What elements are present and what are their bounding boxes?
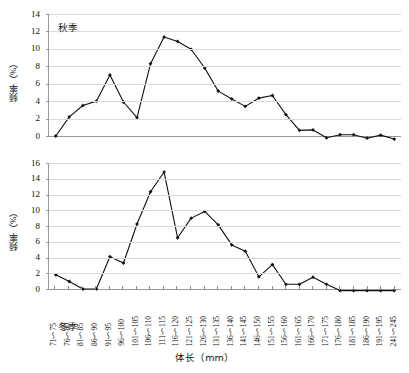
x-tick-mark bbox=[204, 286, 205, 290]
y-tick-label: 14 bbox=[22, 174, 40, 183]
y-tick-mark bbox=[46, 31, 49, 32]
x-tick-label: 191～195 bbox=[376, 316, 384, 347]
x-tick: 81～85 bbox=[76, 290, 87, 346]
data-point-marker bbox=[149, 62, 153, 66]
x-tick-mark bbox=[68, 286, 69, 290]
y-tick-label: 12 bbox=[22, 190, 40, 199]
x-tick: 71～75 bbox=[49, 290, 60, 346]
x-tick-mark bbox=[326, 286, 327, 290]
y-tick-label: 4 bbox=[22, 97, 40, 106]
x-tick-mark bbox=[217, 286, 218, 290]
y-tick-mark bbox=[46, 273, 49, 274]
gridline bbox=[49, 119, 401, 120]
data-point-marker bbox=[365, 136, 369, 140]
x-tick-mark bbox=[244, 286, 245, 290]
x-tick-mark bbox=[272, 286, 273, 290]
data-point-marker bbox=[122, 261, 126, 265]
x-tick-mark bbox=[122, 286, 123, 290]
x-tick-mark bbox=[163, 286, 164, 290]
gridline bbox=[49, 273, 401, 274]
gridline bbox=[49, 163, 401, 164]
y-tick-mark bbox=[46, 195, 49, 196]
gridline bbox=[49, 49, 401, 50]
x-tick: 171～175 bbox=[321, 290, 332, 346]
gridline bbox=[49, 66, 401, 67]
x-tick-mark bbox=[380, 286, 381, 290]
x-tick-mark bbox=[81, 286, 82, 290]
gridline bbox=[49, 210, 401, 211]
x-tick-label: 186～190 bbox=[363, 316, 371, 347]
data-point-marker bbox=[352, 133, 356, 137]
x-tick: 241～245 bbox=[389, 290, 400, 346]
y-tick-mark bbox=[46, 14, 49, 15]
gridline bbox=[49, 84, 401, 85]
x-tick-label: 86～90 bbox=[91, 323, 99, 346]
x-tick: 141～145 bbox=[239, 290, 250, 346]
y-tick-label: 12 bbox=[22, 27, 40, 36]
y-tick-label: 6 bbox=[22, 237, 40, 246]
x-tick-mark bbox=[339, 286, 340, 290]
y-tick-label: 8 bbox=[22, 222, 40, 231]
x-tick-label: 121～125 bbox=[186, 316, 194, 347]
x-tick-label: 76～80 bbox=[64, 323, 72, 346]
gridline bbox=[49, 31, 401, 32]
gridline bbox=[49, 179, 401, 180]
x-tick: 146～150 bbox=[253, 290, 264, 346]
x-tick-label: 111～115 bbox=[159, 316, 167, 346]
x-tick-label: 166～170 bbox=[308, 316, 316, 347]
y-tick-mark bbox=[46, 258, 49, 259]
x-tick: 176～180 bbox=[334, 290, 345, 346]
x-tick-mark bbox=[367, 286, 368, 290]
x-tick-label: 241～245 bbox=[390, 316, 398, 347]
x-tick: 121～125 bbox=[185, 290, 196, 346]
x-tick-mark bbox=[109, 286, 110, 290]
x-tick: 186～190 bbox=[362, 290, 373, 346]
y-tick-mark bbox=[46, 179, 49, 180]
x-tick-label: 71～75 bbox=[50, 323, 58, 346]
x-tick: 191～195 bbox=[375, 290, 386, 346]
data-point-marker bbox=[392, 137, 396, 141]
gridline bbox=[49, 226, 401, 227]
x-tick-label: 126～130 bbox=[200, 316, 208, 347]
x-tick-mark bbox=[299, 286, 300, 290]
y-tick-label: 0 bbox=[22, 132, 40, 141]
x-tick-label: 141～145 bbox=[240, 316, 248, 347]
x-tick-mark bbox=[136, 286, 137, 290]
x-tick: 156～160 bbox=[280, 290, 291, 346]
x-tick: 76～80 bbox=[63, 290, 74, 346]
x-tick-mark bbox=[353, 286, 354, 290]
x-tick-mark bbox=[285, 286, 286, 290]
gridline bbox=[49, 195, 401, 196]
x-tick: 96～100 bbox=[117, 290, 128, 346]
y-tick-label: 6 bbox=[22, 79, 40, 88]
x-tick-mark bbox=[176, 286, 177, 290]
y-tick-mark bbox=[46, 210, 49, 211]
x-tick: 101～105 bbox=[131, 290, 142, 346]
x-tick-label: 81～85 bbox=[77, 323, 85, 346]
data-point-marker bbox=[338, 133, 342, 137]
x-tick-mark bbox=[394, 286, 395, 290]
x-tick-label: 106～110 bbox=[145, 316, 153, 346]
x-tick-mark bbox=[312, 286, 313, 290]
data-point-marker bbox=[311, 275, 315, 279]
y-tick-label: 14 bbox=[22, 10, 40, 19]
x-tick-mark bbox=[190, 286, 191, 290]
chart-panel-autumn: 频率（%） 02468101214 秋季 bbox=[0, 4, 409, 152]
x-tick-mark bbox=[95, 286, 96, 290]
x-tick-mark bbox=[54, 286, 55, 290]
chart-panel-winter: 频率（%） 0246810121416 冬季 bbox=[0, 155, 409, 305]
y-tick-mark bbox=[46, 119, 49, 120]
x-tick-label: 96～100 bbox=[118, 319, 126, 346]
x-tick-label: 146～150 bbox=[254, 316, 262, 347]
gridline bbox=[49, 14, 401, 15]
x-tick: 131～135 bbox=[212, 290, 223, 346]
x-tick-mark bbox=[258, 286, 259, 290]
x-tick-mark bbox=[149, 286, 150, 290]
y-tick-label: 0 bbox=[22, 285, 40, 294]
x-tick: 151～155 bbox=[267, 290, 278, 346]
series-label-autumn: 秋季 bbox=[58, 20, 78, 34]
x-tick: 166～170 bbox=[307, 290, 318, 346]
data-point-marker bbox=[108, 73, 112, 77]
x-tick-label: 151～155 bbox=[268, 316, 276, 347]
x-axis: 71～7576～8081～8586～9091～9596～100101～10510… bbox=[48, 290, 401, 346]
